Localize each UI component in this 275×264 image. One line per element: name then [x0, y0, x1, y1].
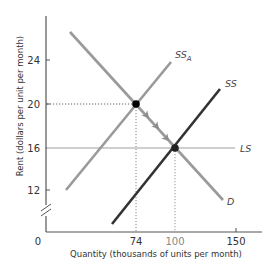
adjustment-arrows [141, 110, 172, 144]
x-axis-title: Quantity (thousands of units per month) [70, 249, 242, 259]
curve-label-d: D [227, 196, 234, 207]
y-tick-label-20: 20 [27, 99, 40, 110]
rent-market-chart: 24 20 16 12 Rent (dollars per unit per m… [0, 0, 275, 264]
initial-equilibrium-point [132, 100, 140, 108]
y-tick-label-12: 12 [27, 185, 40, 196]
y-axis: 24 20 16 12 Rent (dollars per unit per m… [15, 16, 51, 232]
x-axis: 0 74 100 150 Quantity (thousands of unit… [35, 228, 262, 259]
y-axis-title: Rent (dollars per unit per month) [15, 36, 25, 176]
curve-label-ssa: SSA [175, 49, 192, 63]
origin-label: 0 [35, 236, 41, 247]
x-tick-label-74: 74 [130, 236, 143, 247]
curve-label-ls: LS [240, 143, 251, 154]
y-tick-label-16: 16 [27, 143, 40, 154]
axis-break-icon [41, 204, 51, 216]
short-run-supply-curve [112, 89, 220, 224]
x-tick-label-100: 100 [165, 236, 184, 247]
final-equilibrium-point [171, 144, 179, 152]
curve-label-ss: SS [225, 78, 237, 89]
y-tick-label-24: 24 [27, 55, 40, 66]
x-tick-label-150: 150 [226, 236, 245, 247]
